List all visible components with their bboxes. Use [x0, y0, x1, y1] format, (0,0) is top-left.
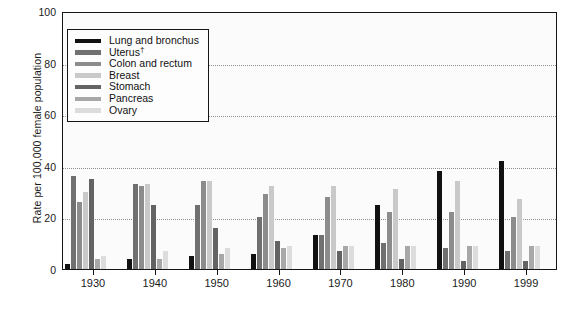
bar	[127, 259, 132, 269]
bar	[393, 189, 398, 269]
y-axis-tick-label: 60	[4, 109, 56, 121]
bar	[337, 251, 342, 269]
bar	[207, 181, 212, 269]
bar	[219, 254, 224, 269]
legend-color-swatch	[75, 108, 101, 113]
bar	[473, 246, 478, 269]
x-axis-tick-label: 1980	[372, 277, 432, 289]
bar-group	[375, 13, 416, 269]
x-axis-tick-label: 1950	[187, 277, 247, 289]
bar-group	[437, 13, 478, 269]
legend-label: Pancreas	[109, 93, 153, 105]
bar	[145, 184, 150, 269]
bar	[83, 192, 88, 269]
bar	[461, 261, 466, 269]
bar	[437, 171, 442, 269]
x-axis-tick-label: 1930	[63, 277, 123, 289]
legend: Lung and bronchusUterus†Colon and rectum…	[67, 29, 209, 122]
bar	[201, 181, 206, 269]
bar	[343, 246, 348, 269]
bar-group	[251, 13, 292, 269]
legend-item[interactable]: Pancreas	[75, 93, 199, 105]
bar	[529, 246, 534, 269]
bar	[511, 217, 516, 269]
bar	[411, 246, 416, 269]
bar	[535, 246, 540, 269]
bar	[95, 259, 100, 269]
bar	[467, 246, 472, 269]
y-axis-tick-label: 20	[4, 212, 56, 224]
legend-color-swatch	[75, 73, 101, 78]
bar-group	[313, 13, 354, 269]
x-axis-tick-mark	[93, 270, 94, 275]
x-axis-tick-label: 1970	[310, 277, 370, 289]
bar	[331, 186, 336, 269]
bar	[163, 251, 168, 269]
bar	[251, 254, 256, 269]
bar	[195, 205, 200, 270]
bar	[269, 186, 274, 269]
bar	[225, 248, 230, 269]
bar-group	[499, 13, 540, 269]
bar	[65, 264, 70, 269]
bar	[523, 261, 528, 269]
bar	[399, 259, 404, 269]
bar	[101, 256, 106, 269]
bar	[517, 199, 522, 269]
bar	[157, 259, 162, 269]
bar	[313, 235, 318, 269]
bar	[349, 246, 354, 269]
x-axis-tick-label: 1999	[496, 277, 556, 289]
bar	[89, 179, 94, 269]
x-axis-tick-label: 1940	[125, 277, 185, 289]
y-axis-tick-labels: 020406080100	[0, 12, 56, 270]
y-axis-tick-label: 80	[4, 58, 56, 70]
legend-color-swatch	[75, 50, 101, 55]
y-axis-tick-label: 100	[4, 6, 56, 18]
x-axis: 19301940195019601970198019901999	[62, 270, 557, 308]
bar	[319, 235, 324, 269]
bar	[499, 161, 504, 269]
bar	[133, 184, 138, 269]
bar	[387, 212, 392, 269]
x-axis-tick-mark	[464, 270, 465, 275]
bar	[213, 228, 218, 269]
x-axis-tick-mark	[155, 270, 156, 275]
bar	[139, 186, 144, 269]
x-axis-tick-label: 1960	[249, 277, 309, 289]
bar	[455, 181, 460, 269]
bar	[189, 256, 194, 269]
legend-item[interactable]: Ovary	[75, 105, 199, 117]
bar	[449, 212, 454, 269]
legend-label: Ovary	[109, 105, 137, 117]
x-axis-tick-mark	[279, 270, 280, 275]
legend-color-swatch	[75, 97, 101, 102]
bar	[71, 176, 76, 269]
legend-color-swatch	[75, 62, 101, 67]
bar	[505, 251, 510, 269]
legend-label: Lung and bronchus	[109, 35, 199, 47]
bar	[257, 217, 262, 269]
legend-color-swatch	[75, 85, 101, 90]
x-axis-tick-mark	[340, 270, 341, 275]
y-axis-tick-label: 0	[4, 264, 56, 276]
x-axis-tick-mark	[526, 270, 527, 275]
x-axis-tick-mark	[402, 270, 403, 275]
legend-item[interactable]: Lung and bronchus	[75, 35, 199, 47]
bar	[281, 248, 286, 269]
bar	[77, 202, 82, 269]
bar	[325, 197, 330, 269]
bar	[375, 205, 380, 270]
figure: Rate per 100,000 female population 02040…	[0, 0, 585, 309]
bar	[405, 246, 410, 269]
x-axis-tick-label: 1990	[434, 277, 494, 289]
bar	[443, 248, 448, 269]
bar	[263, 194, 268, 269]
x-axis-tick-mark	[217, 270, 218, 275]
bar	[151, 205, 156, 270]
bar	[381, 243, 386, 269]
y-axis-tick-label: 40	[4, 161, 56, 173]
legend-color-swatch	[75, 39, 101, 44]
bar	[275, 241, 280, 269]
bar	[287, 246, 292, 269]
